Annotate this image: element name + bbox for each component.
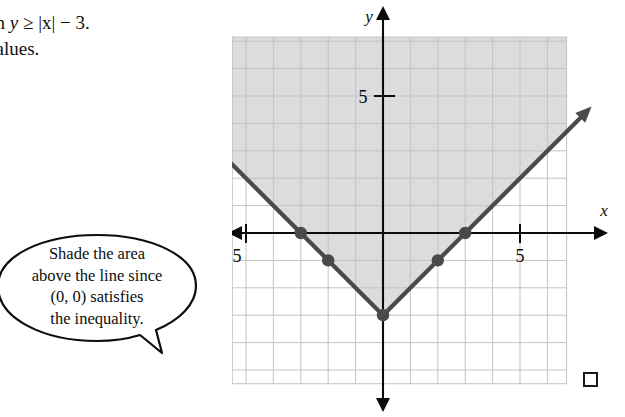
corner-checkbox[interactable] (583, 372, 598, 387)
coordinate-graph: −5 5 5 x y (232, 0, 625, 417)
problem-prefix: ph (0, 12, 10, 33)
graph-canvas: −5 5 5 x y (232, 0, 625, 417)
plotted-point (459, 227, 471, 239)
plotted-point (432, 254, 444, 266)
plotted-point (377, 309, 389, 321)
y-axis-arrow-down (376, 398, 390, 412)
plotted-point (322, 254, 334, 266)
problem-variable-y: y (10, 12, 18, 33)
y-tick-label-5: 5 (359, 87, 368, 107)
problem-statement-line-2: values. (0, 36, 226, 62)
callout-bubble-text: Shade the area above the line since (0, … (0, 243, 196, 329)
callout-bubble: Shade the area above the line since (0, … (0, 231, 204, 341)
problem-statement-line-1: ph y ≥ |x| − 3. (0, 10, 226, 36)
y-axis-arrow-up (376, 6, 390, 20)
y-axis-label: y (363, 7, 373, 26)
problem-relation: ≥ (18, 12, 38, 33)
callout-line-4: the inequality. (0, 308, 196, 330)
callout-line-2: above the line since (0, 265, 196, 287)
callout-line-3: (0, 0) satisfies (0, 286, 196, 308)
problem-statement: ph y ≥ |x| − 3. values. (0, 10, 226, 62)
x-tick-label-neg5: −5 (232, 246, 242, 266)
problem-suffix: − 3. (55, 12, 89, 33)
x-tick-label-5: 5 (516, 246, 525, 266)
callout-line-1: Shade the area (0, 243, 196, 265)
x-axis-arrow-right (594, 226, 608, 240)
plotted-point (295, 227, 307, 239)
x-axis-label: x (599, 201, 608, 220)
problem-absolute-value-x: |x| (38, 12, 55, 33)
